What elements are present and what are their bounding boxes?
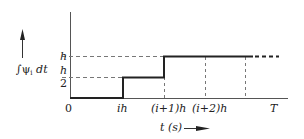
y-tick-h: h <box>60 50 67 63</box>
x-tick-i2h: (i+2)h <box>192 102 227 115</box>
x-tick-ih: ih <box>117 102 128 115</box>
x-tick-i1h: (i+1)h <box>151 102 186 115</box>
y-tick-h-half-numerator: h <box>60 64 67 77</box>
x-tick-T: T <box>270 102 279 115</box>
y-label-arrow-head-icon <box>20 29 25 40</box>
integral-step-diagram: ∫ψi dt h h 2 0 ih (i+1)h (i+2)h T t (s) <box>0 0 304 139</box>
y-axis-label: ∫ψi dt <box>16 63 48 77</box>
y-tick-h-half-denominator: 2 <box>60 77 67 90</box>
x-axis-label: t (s) <box>160 121 182 134</box>
x-label-arrow-head-icon <box>196 126 210 131</box>
x-tick-zero: 0 <box>65 102 72 115</box>
